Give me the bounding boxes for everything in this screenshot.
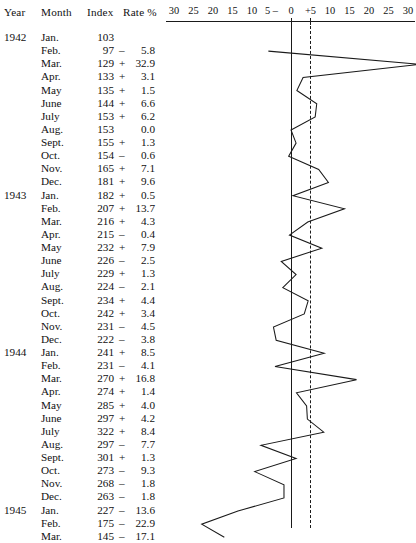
cell-value: 4.5: [127, 320, 155, 332]
cell-index: 133: [84, 70, 114, 82]
table-row: June297+4.2: [0, 412, 166, 425]
cell-year: 1942: [4, 31, 38, 43]
cell-month: Mar.: [41, 57, 83, 69]
cell-index: 242: [84, 307, 114, 319]
table-row: Dec.181+9.6: [0, 175, 166, 188]
cell-month: Mar.: [41, 530, 83, 542]
table-row: 1945Jan.227–13.6: [0, 504, 166, 517]
table-row: 1944Jan.241+8.5: [0, 346, 166, 359]
cell-value: 6.2: [127, 110, 155, 122]
cell-index: 129: [84, 57, 114, 69]
column-header-month: Month: [41, 6, 72, 18]
cell-month: Apr.: [41, 70, 83, 82]
cell-value: 1.3: [127, 136, 155, 148]
table-row: Apr.274+1.4: [0, 385, 166, 398]
cell-index: 274: [84, 385, 114, 397]
cell-index: 268: [84, 477, 114, 489]
cell-month: Jan.: [41, 346, 83, 358]
cell-value: 13.6: [127, 504, 155, 516]
cell-month: Nov.: [41, 162, 83, 174]
cell-month: May: [41, 399, 83, 411]
table-row: Nov.231–4.5: [0, 320, 166, 333]
cell-index: 224: [84, 280, 114, 292]
cell-index: 97: [84, 44, 114, 56]
table-row: Feb.231–4.1: [0, 359, 166, 372]
cell-index: 234: [84, 294, 114, 306]
column-header-rate: Rate %: [123, 6, 157, 18]
cell-index: 263: [84, 490, 114, 502]
cell-month: May: [41, 241, 83, 253]
cell-index: 229: [84, 267, 114, 279]
cell-value: 9.6: [127, 175, 155, 187]
cell-month: Feb.: [41, 517, 83, 529]
cell-index: 232: [84, 241, 114, 253]
table-row: Feb.97–5.8: [0, 44, 166, 57]
cell-month: Dec.: [41, 175, 83, 187]
cell-value: 22.9: [127, 517, 155, 529]
cell-month: Aug.: [41, 280, 83, 292]
cell-index: 222: [84, 333, 114, 345]
cell-index: 322: [84, 425, 114, 437]
table-row: July153+6.2: [0, 110, 166, 123]
cell-index: 301: [84, 451, 114, 463]
cell-index: 226: [84, 254, 114, 266]
cell-month: June: [41, 412, 83, 424]
table-row: Dec.222–3.8: [0, 333, 166, 346]
table-row: June144+6.6: [0, 97, 166, 110]
cell-value: 4.4: [127, 294, 155, 306]
cell-month: Jan.: [41, 504, 83, 516]
cell-month: Aug.: [41, 438, 83, 450]
cell-value: 1.3: [127, 451, 155, 463]
table-row: Mar.270+16.8: [0, 372, 166, 385]
cell-month: Apr.: [41, 228, 83, 240]
table-row: May232+7.9: [0, 241, 166, 254]
cell-month: Mar.: [41, 215, 83, 227]
cell-month: Sept.: [41, 136, 83, 148]
cell-value: 16.8: [127, 372, 155, 384]
data-table: Year Month Index Rate % 1942Jan.103Feb.9…: [0, 0, 166, 533]
cell-index: 153: [84, 110, 114, 122]
cell-month: Apr.: [41, 385, 83, 397]
table-row: Aug.224–2.1: [0, 280, 166, 293]
cell-month: Sept.: [41, 451, 83, 463]
cell-value: 8.4: [127, 425, 155, 437]
cell-month: Feb.: [41, 359, 83, 371]
cell-value: 4.0: [127, 399, 155, 411]
column-header-index: Index: [87, 6, 113, 18]
cell-value: 2.5: [127, 254, 155, 266]
table-row: May135+1.5: [0, 84, 166, 97]
cell-month: June: [41, 97, 83, 109]
table-row: Sept.234+4.4: [0, 294, 166, 307]
cell-value: 1.5: [127, 84, 155, 96]
cell-index: 215: [84, 228, 114, 240]
table-row: Sept.301+1.3: [0, 451, 166, 464]
table-row: Oct.154–0.6: [0, 149, 166, 162]
cell-value: 3.1: [127, 70, 155, 82]
table-row: July322+8.4: [0, 425, 166, 438]
cell-index: 153: [84, 123, 114, 135]
cell-value: 1.8: [127, 490, 155, 502]
table-row: Mar.216+4.3: [0, 215, 166, 228]
table-row: Nov.268–1.8: [0, 477, 166, 490]
cell-month: Nov.: [41, 477, 83, 489]
table-row: Mar.145–17.1: [0, 530, 166, 543]
table-row: Apr.133+3.1: [0, 70, 166, 83]
table-row: July229+1.3: [0, 267, 166, 280]
cell-month: June: [41, 254, 83, 266]
cell-index: 297: [84, 412, 114, 424]
cell-index: 181: [84, 175, 114, 187]
cell-index: 175: [84, 517, 114, 529]
table-row: Dec.263–1.8: [0, 490, 166, 503]
cell-value: 8.5: [127, 346, 155, 358]
cell-index: 165: [84, 162, 114, 174]
table-header-row: Year Month Index Rate %: [0, 6, 166, 22]
cell-month: Mar.: [41, 372, 83, 384]
cell-month: Dec.: [41, 333, 83, 345]
cell-index: 273: [84, 464, 114, 476]
cell-index: 227: [84, 504, 114, 516]
table-row: June226–2.5: [0, 254, 166, 267]
cell-value: 0.0: [127, 123, 155, 135]
cell-value: 6.6: [127, 97, 155, 109]
table-row: Aug.297–7.7: [0, 438, 166, 451]
